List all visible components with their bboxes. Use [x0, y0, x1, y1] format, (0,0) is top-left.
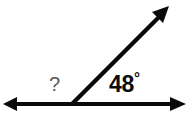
unknown-angle-label: ?: [49, 74, 60, 94]
angle-diagram: 48° ?: [0, 0, 189, 131]
baseline-right-arrowhead-icon: [170, 97, 186, 111]
known-angle-label: 48°: [109, 73, 140, 96]
degree-symbol: °: [134, 69, 140, 86]
angle-figure-svg: [0, 0, 189, 131]
baseline-left-arrowhead-icon: [3, 97, 17, 111]
known-angle-value: 48: [109, 71, 134, 97]
